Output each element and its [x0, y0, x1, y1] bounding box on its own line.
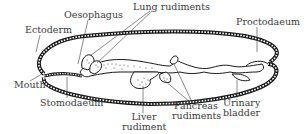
label-bladder-line2: bladder	[223, 108, 260, 118]
label-oesophagus: Oesophagus	[64, 10, 123, 20]
embryo-gut-diagram: Oesophagus Lung rudiments Ectoderm Proct…	[0, 0, 306, 134]
label-pancreas-line2: rudiments	[172, 111, 220, 121]
leader-pancreas-1	[164, 80, 190, 102]
label-stomodaeum: Stomodaeum	[40, 98, 103, 108]
label-lung-rudiments: Lung rudiments	[133, 2, 210, 12]
label-pancreas-rudiments: Pancreas rudiments	[172, 101, 220, 121]
label-liver-line2: rudiment	[122, 122, 166, 132]
urinary-bladder-drawing	[232, 74, 250, 81]
label-urinary-bladder: Urinary bladder	[223, 98, 260, 118]
label-ectoderm: Ectoderm	[25, 25, 72, 35]
stomodaeum-wall	[44, 74, 82, 76]
label-proctodaeum: Proctodaeum	[236, 17, 300, 27]
liver-rudiment-drawing	[131, 72, 159, 89]
leader-ectoderm	[36, 35, 40, 52]
label-liver-rudiment: Liver rudiment	[122, 112, 166, 132]
label-mouth: Mouth	[14, 80, 46, 90]
